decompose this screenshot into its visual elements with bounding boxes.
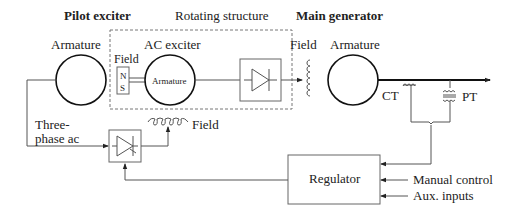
main-armature-label: Armature bbox=[330, 37, 380, 52]
pilot-armature-label: Armature bbox=[51, 37, 101, 52]
rotating-structure-header: Rotating structure bbox=[175, 8, 269, 23]
ct-label: CT bbox=[382, 88, 399, 103]
three-phase-label-1: Three- bbox=[35, 117, 70, 132]
regulator-label: Regulator bbox=[309, 171, 361, 186]
exciter-field-label: Field bbox=[114, 52, 139, 66]
main-field-coil-icon bbox=[307, 60, 310, 96]
pilot-exciter-header: Pilot exciter bbox=[64, 8, 131, 23]
pole-s: S bbox=[120, 83, 125, 93]
exciter-armature-label: Armature bbox=[152, 76, 186, 86]
pole-n: N bbox=[120, 71, 127, 81]
aux-inputs-label: Aux. inputs bbox=[413, 188, 474, 203]
pilot-field-label: Field bbox=[192, 117, 219, 132]
pt-transformer-icon bbox=[443, 91, 456, 102]
rotating-field-label: Field bbox=[290, 37, 317, 52]
three-phase-label-2: phase ac bbox=[35, 131, 80, 146]
pilot-exciter-armature bbox=[56, 55, 106, 105]
main-generator-armature bbox=[328, 55, 378, 105]
manual-control-label: Manual control bbox=[413, 172, 493, 187]
ac-exciter-label: AC exciter bbox=[144, 37, 201, 52]
pt-label: PT bbox=[462, 89, 477, 104]
main-generator-header: Main generator bbox=[296, 8, 383, 23]
pilot-field-coil-icon bbox=[148, 118, 188, 125]
excitation-system-diagram: Pilot exciter Rotating structure Main ge… bbox=[0, 0, 519, 219]
